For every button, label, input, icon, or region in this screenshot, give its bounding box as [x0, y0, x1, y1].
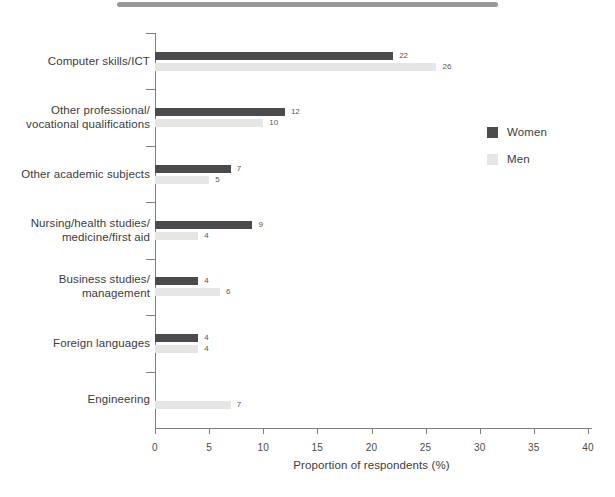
x-axis-tick-label: 35	[522, 442, 546, 453]
y-axis-tick	[146, 33, 155, 34]
category-label-line: Other professional/	[0, 103, 150, 117]
legend-item-women: Women	[487, 126, 547, 138]
bar-men	[155, 288, 220, 296]
bar-men	[155, 232, 198, 240]
bar-women	[155, 334, 198, 342]
value-label: 12	[291, 107, 300, 117]
x-axis-line	[155, 428, 592, 429]
y-axis-tick	[146, 259, 155, 260]
bar-men	[155, 119, 263, 127]
value-label: 4	[204, 333, 208, 343]
x-axis-tick	[317, 428, 318, 434]
bar-chart: Proportion of respondents (%) Women Men …	[0, 0, 615, 497]
bar-women	[155, 52, 393, 60]
value-label: 4	[204, 344, 208, 354]
x-axis-tick	[534, 428, 535, 434]
category-label: Engineering	[0, 392, 150, 406]
category-label: Foreign languages	[0, 336, 150, 350]
x-axis-tick	[209, 428, 210, 434]
category-label-line: Engineering	[0, 392, 150, 406]
value-label: 6	[226, 287, 230, 297]
category-label-line: Nursing/health studies/	[0, 216, 150, 230]
y-axis-line	[155, 33, 156, 429]
x-axis-tick	[426, 428, 427, 434]
x-axis-tick-label: 15	[305, 442, 329, 453]
legend-swatch-men	[487, 154, 498, 165]
x-axis-tick-label: 10	[251, 442, 275, 453]
y-axis-tick	[146, 146, 155, 147]
category-label-line: vocational qualifications	[0, 117, 150, 131]
category-label: Nursing/health studies/medicine/first ai…	[0, 216, 150, 244]
value-label: 9	[258, 220, 262, 230]
y-axis-tick	[146, 372, 155, 373]
x-axis-tick-label: 0	[143, 442, 167, 453]
category-label-line: management	[0, 286, 150, 300]
category-label: Computer skills/ICT	[0, 54, 150, 68]
legend-item-men: Men	[487, 153, 530, 165]
bar-men	[155, 401, 231, 409]
category-label-line: Foreign languages	[0, 336, 150, 350]
category-label-line: Business studies/	[0, 272, 150, 286]
bar-men	[155, 63, 436, 71]
y-axis-tick	[146, 202, 155, 203]
x-axis-tick-label: 40	[576, 442, 600, 453]
category-label-line: medicine/first aid	[0, 230, 150, 244]
top-divider	[117, 2, 498, 7]
bar-men	[155, 176, 209, 184]
value-label: 7	[237, 164, 241, 174]
legend-label-men: Men	[507, 153, 530, 165]
x-axis-tick-label: 30	[468, 442, 492, 453]
category-label-line: Other academic subjects	[0, 167, 150, 181]
x-axis-tick	[372, 428, 373, 434]
bar-women	[155, 277, 198, 285]
bar-women	[155, 108, 285, 116]
category-label: Other professional/vocational qualificat…	[0, 103, 150, 131]
x-axis-tick	[155, 428, 156, 434]
value-label: 4	[204, 231, 208, 241]
category-label: Business studies/management	[0, 272, 150, 300]
value-label: 5	[215, 175, 219, 185]
x-axis-tick-label: 20	[360, 442, 384, 453]
x-axis-tick-label: 25	[414, 442, 438, 453]
legend-swatch-women	[487, 127, 498, 138]
value-label: 10	[269, 118, 278, 128]
x-axis-tick	[588, 428, 589, 434]
x-axis-tick	[480, 428, 481, 434]
bar-women	[155, 165, 231, 173]
y-axis-tick	[146, 89, 155, 90]
y-axis-tick	[146, 315, 155, 316]
x-axis-title: Proportion of respondents (%)	[155, 459, 588, 471]
category-label-line: Computer skills/ICT	[0, 54, 150, 68]
x-axis-tick	[263, 428, 264, 434]
value-label: 4	[204, 276, 208, 286]
value-label: 26	[442, 62, 451, 72]
category-label: Other academic subjects	[0, 167, 150, 181]
value-label: 22	[399, 51, 408, 61]
legend-label-women: Women	[507, 126, 547, 138]
bar-men	[155, 345, 198, 353]
x-axis-tick-label: 5	[197, 442, 221, 453]
value-label: 7	[237, 400, 241, 410]
bar-women	[155, 221, 252, 229]
